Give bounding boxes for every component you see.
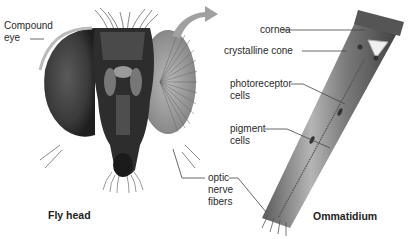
label-line: photoreceptor <box>230 78 292 90</box>
label-line: eye <box>4 32 53 44</box>
compound-eye-label: Compound eye <box>4 20 53 44</box>
label-line: pigment <box>230 123 266 135</box>
label-line: cells <box>230 90 292 102</box>
label-line: cells <box>230 135 266 147</box>
crystalline-cone-label: crystalline cone <box>224 45 293 57</box>
ommatidium-illustration <box>262 10 404 236</box>
optic-nerve-fibers-label: optic nerve fibers <box>208 172 233 208</box>
label-line: optic <box>208 172 233 184</box>
fly-head-title: Fly head <box>48 209 91 221</box>
label-line: Compound <box>4 20 53 32</box>
pigment-cells-label: pigment cells <box>230 123 266 147</box>
photoreceptor-cells-label: photoreceptor cells <box>230 78 292 102</box>
magnify-arrow-icon <box>172 6 218 38</box>
cornea-label: cornea <box>260 24 291 36</box>
label-line: fibers <box>208 196 233 208</box>
ommatidium-title: Ommatidium <box>313 210 377 222</box>
diagram-canvas <box>0 0 409 239</box>
label-line: nerve <box>208 184 233 196</box>
